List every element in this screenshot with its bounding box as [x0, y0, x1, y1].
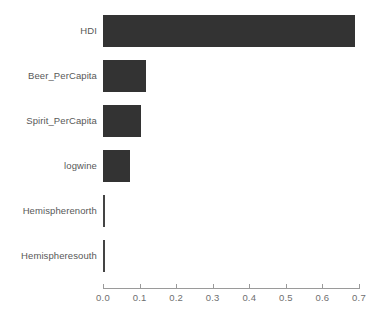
x-axis-tick [249, 284, 250, 289]
category-label: Hemispheresouth [21, 240, 97, 272]
category-label: Spirit_PerCapita [26, 105, 97, 137]
x-axis-line [103, 288, 359, 289]
x-axis-tick [103, 284, 104, 289]
bar-row: Hemispheresouth [0, 240, 379, 272]
x-axis-tick-label: 0.2 [169, 292, 183, 303]
x-axis-tick [322, 284, 323, 289]
x-axis-tick-label: 0.3 [206, 292, 220, 303]
bar-row: Spirit_PerCapita [0, 105, 379, 137]
x-axis-tick-label: 0.4 [242, 292, 256, 303]
x-axis-tick-label: 0.1 [133, 292, 147, 303]
x-axis-tick [213, 284, 214, 289]
x-axis-tick [359, 284, 360, 289]
bar-hdi [103, 15, 355, 47]
bar-chart: HDI Beer_PerCapita Spirit_PerCapita logw… [0, 0, 379, 325]
bar-hemispherenorth [103, 195, 105, 227]
x-axis-tick [286, 284, 287, 289]
bar-row: logwine [0, 150, 379, 182]
bar-beer-percapita [103, 60, 146, 92]
bar-spirit-percapita [103, 105, 141, 137]
x-axis-tick-label: 0.5 [279, 292, 293, 303]
category-label: HDI [80, 15, 97, 47]
x-axis-tick-label: 0.7 [352, 292, 366, 303]
category-label: logwine [64, 150, 97, 182]
x-axis-tick-label: 0.0 [96, 292, 110, 303]
category-label: Hemispherenorth [23, 195, 97, 227]
category-label: Beer_PerCapita [28, 60, 97, 92]
bar-logwine [103, 150, 130, 182]
x-axis-tick-label: 0.6 [315, 292, 329, 303]
bar-row: Hemispherenorth [0, 195, 379, 227]
bar-hemispheresouth [103, 240, 105, 272]
bar-row: HDI [0, 15, 379, 47]
x-axis-tick [176, 284, 177, 289]
x-axis-tick [140, 284, 141, 289]
bar-row: Beer_PerCapita [0, 60, 379, 92]
